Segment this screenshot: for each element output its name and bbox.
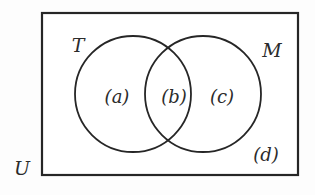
- venn-diagram-canvas: [0, 0, 315, 195]
- region-label-a: (a): [105, 88, 130, 106]
- set-label-t: T: [72, 36, 85, 55]
- region-label-b: (b): [161, 88, 187, 106]
- universe-label: U: [14, 159, 30, 178]
- region-label-c: (c): [210, 88, 234, 106]
- venn-diagram-figure: T M (a) (b) (c) (d) U: [0, 0, 315, 195]
- region-label-d: (d): [253, 146, 279, 164]
- set-label-m: M: [262, 41, 281, 60]
